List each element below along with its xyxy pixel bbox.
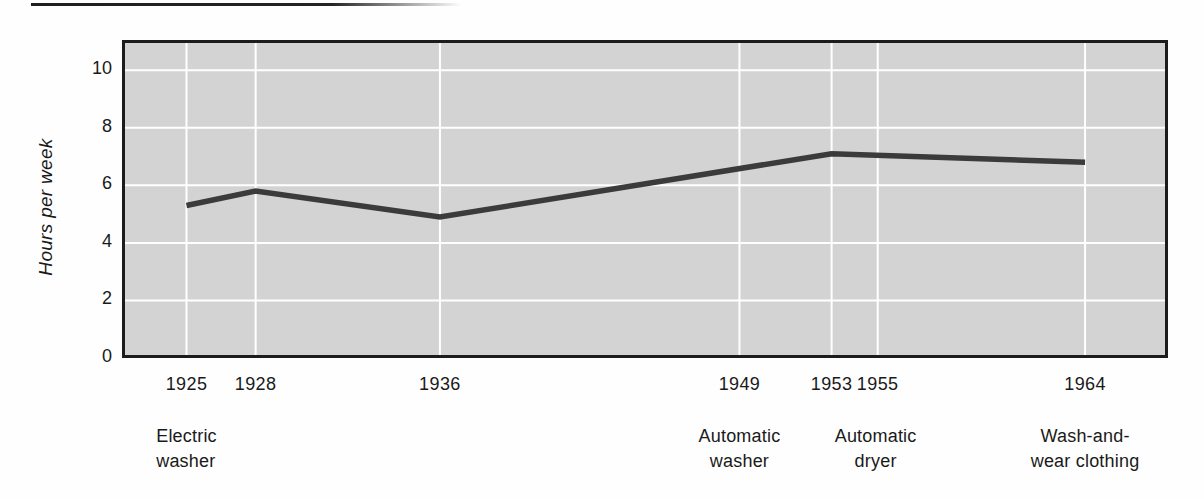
scanned-chart-page: Hours per week 0246810 19251928193619491… — [0, 0, 1204, 499]
annotation-automatic-dryer: Automatic dryer — [835, 424, 917, 474]
x-tick-label-1964: 1964 — [1043, 374, 1127, 395]
y-tick-label-8: 8 — [70, 116, 112, 137]
x-tick-label-1949: 1949 — [697, 374, 781, 395]
annotation-automatic-washer: Automatic washer — [699, 424, 781, 474]
annotation-electric-washer: Electric washer — [156, 424, 217, 474]
x-tick-label-1955: 1955 — [836, 374, 920, 395]
x-tick-label-1928: 1928 — [214, 374, 298, 395]
annotation-wash-and-wear-clothing: Wash-and- wear clothing — [1031, 424, 1140, 474]
y-tick-label-0: 0 — [70, 346, 112, 367]
y-tick-label-2: 2 — [70, 288, 112, 309]
y-tick-label-4: 4 — [70, 231, 112, 252]
y-tick-label-6: 6 — [70, 173, 112, 194]
plot-background — [122, 40, 1168, 358]
y-tick-label-10: 10 — [70, 58, 112, 79]
x-tick-label-1936: 1936 — [398, 374, 482, 395]
y-axis-label: Hours per week — [35, 138, 57, 275]
